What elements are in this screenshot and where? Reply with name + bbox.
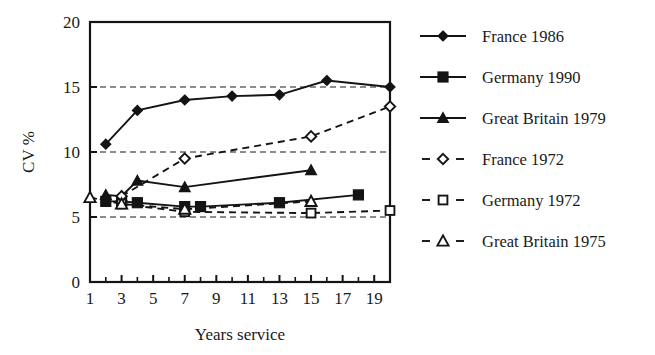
legend-label: Germany 1990	[482, 68, 581, 87]
x-tick-label-11: 11	[240, 289, 256, 308]
legend-label: Great Britain 1979	[482, 109, 606, 128]
x-axis-title: Years service	[195, 325, 285, 344]
marker-filled-square	[196, 202, 206, 212]
legend-label: Great Britain 1975	[482, 232, 606, 251]
x-tick-label-19: 19	[366, 289, 383, 308]
marker-open-square	[386, 206, 395, 215]
x-tick-label-5: 5	[149, 289, 158, 308]
x-tick-label-15: 15	[303, 289, 320, 308]
chart-figure: 135791113151719 05101520 Years service C…	[0, 0, 655, 355]
y-tick-label-15: 15	[63, 78, 80, 97]
x-tick-label-3: 3	[117, 289, 126, 308]
x-tick-label-17: 17	[334, 289, 352, 308]
marker-filled-square	[438, 72, 448, 82]
y-tick-label-10: 10	[63, 143, 80, 162]
y-tick-label-5: 5	[72, 208, 81, 227]
marker-open-square	[439, 196, 448, 205]
marker-filled-square	[132, 198, 142, 208]
marker-filled-square	[353, 190, 363, 200]
cv-percent-vs-years-service-chart: 135791113151719 05101520 Years service C…	[0, 0, 655, 355]
y-tick-label-0: 0	[72, 273, 81, 292]
x-tick-label-1: 1	[86, 289, 95, 308]
x-tick-label-9: 9	[212, 289, 221, 308]
chart-background	[0, 0, 655, 355]
y-tick-label-20: 20	[63, 13, 80, 32]
legend-label: Germany 1972	[482, 191, 581, 210]
y-axis-title: CV %	[19, 131, 38, 173]
x-tick-label-7: 7	[180, 289, 189, 308]
x-tick-label-13: 13	[271, 289, 288, 308]
legend-label: France 1986	[482, 27, 564, 46]
marker-filled-square	[274, 198, 284, 208]
legend-label: France 1972	[482, 150, 564, 169]
marker-open-square	[307, 209, 316, 218]
